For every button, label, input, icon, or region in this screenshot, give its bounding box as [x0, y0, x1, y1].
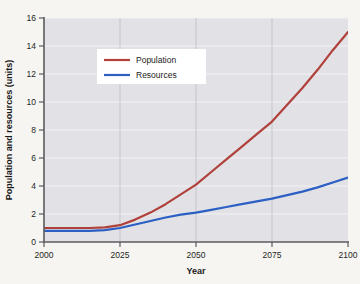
y-axis-title: Population and resources (units) [4, 60, 14, 201]
x-tick-label: 2000 [35, 250, 54, 260]
x-axis-title: Year [186, 266, 206, 276]
legend-label-population: Population [136, 55, 176, 65]
y-tick-label: 10 [27, 97, 37, 107]
y-tick-label: 0 [31, 237, 36, 247]
y-tick-label: 16 [27, 13, 37, 23]
y-tick-label: 14 [27, 41, 37, 51]
x-tick-label: 2075 [263, 250, 282, 260]
population-resources-line-chart: 0 2 4 6 8 10 12 14 16 2000 2025 2050 207… [0, 0, 360, 284]
y-tick-label: 2 [31, 209, 36, 219]
chart-legend: Population Resources [97, 49, 206, 84]
y-tick-label: 8 [31, 125, 36, 135]
y-tick-label: 12 [27, 69, 37, 79]
x-tick-label: 2050 [187, 250, 206, 260]
legend-label-resources: Resources [136, 70, 177, 80]
chart-figure: 0 2 4 6 8 10 12 14 16 2000 2025 2050 207… [0, 0, 360, 284]
y-tick-label: 6 [31, 153, 36, 163]
y-tick-label: 4 [31, 181, 36, 191]
x-tick-label: 2100 [339, 250, 358, 260]
x-tick-label: 2025 [111, 250, 130, 260]
